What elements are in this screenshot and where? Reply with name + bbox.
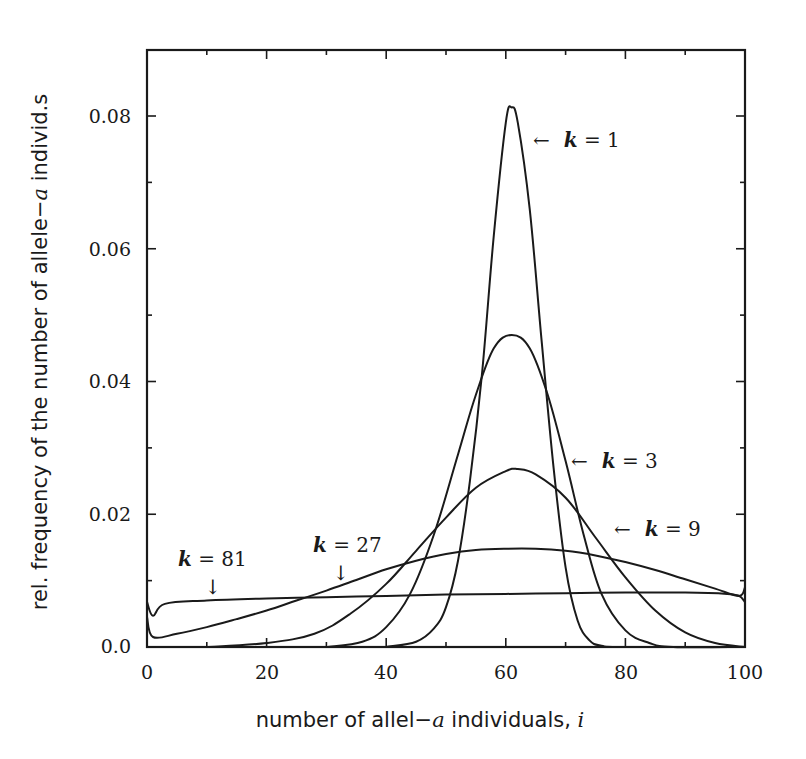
curve-k-9: [207, 469, 745, 647]
y-tick-label: 0.02: [89, 503, 131, 525]
x-tick-label: 0: [141, 661, 153, 683]
y-axis-tick-labels: 0.0 0.02 0.04 0.06 0.08: [89, 105, 131, 657]
left-arrow-icon: ←: [614, 517, 631, 541]
curve-k-1: [386, 106, 745, 647]
down-arrow-icon: ↓: [333, 561, 350, 585]
left-arrow-icon: ←: [533, 128, 550, 152]
x-tick-label: 80: [614, 661, 638, 683]
y-tick-label: 0.06: [89, 238, 131, 260]
curve-k-81: [147, 592, 745, 615]
x-tick-label: 60: [494, 661, 518, 683]
annotation-k-3: ←k = 3: [571, 449, 658, 473]
chart-canvas: 0 20 40 60 80 100 0.0 0.02 0.04 0.06 0.0…: [0, 0, 806, 759]
x-tick-label: 100: [727, 661, 763, 683]
x-tick-label: 20: [255, 661, 279, 683]
chart-figure: 0 20 40 60 80 100 0.0 0.02 0.04 0.06 0.0…: [0, 0, 806, 759]
y-tick-label: 0.0: [101, 635, 131, 657]
y-tick-label: 0.04: [89, 370, 131, 392]
curve-k-3: [326, 335, 745, 647]
annotation-k-1: ←k = 1: [533, 128, 620, 152]
y-axis-label: rel. frequency of the number of allele−a…: [28, 94, 52, 610]
x-axis-tick-labels: 0 20 40 60 80 100: [141, 661, 763, 683]
y-tick-label: 0.08: [89, 105, 131, 127]
x-axis-label: number of allel−a individuals, i: [256, 708, 585, 732]
left-arrow-icon: ←: [571, 449, 588, 473]
down-arrow-icon: ↓: [205, 575, 222, 599]
annotation-k-81: k = 81: [178, 547, 247, 571]
annotation-k-9: ←k = 9: [614, 517, 701, 541]
x-tick-label: 40: [374, 661, 398, 683]
annotation-k-27: k = 27: [313, 533, 382, 557]
